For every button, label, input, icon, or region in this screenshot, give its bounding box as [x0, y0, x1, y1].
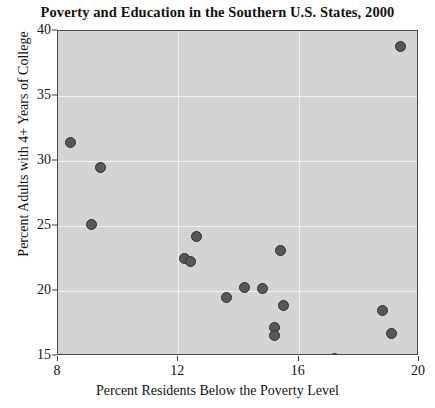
- gridline-horizontal: [58, 226, 417, 227]
- x-tick-label: 8: [54, 363, 61, 379]
- data-point: [86, 219, 97, 230]
- gridline-vertical: [299, 31, 300, 354]
- y-tick-label: 20: [5, 282, 57, 298]
- gridline-horizontal: [58, 291, 417, 292]
- plot-area: [57, 30, 418, 355]
- data-point: [191, 231, 202, 242]
- y-tick-label: 15: [5, 347, 57, 363]
- y-tick-label: 35: [5, 87, 57, 103]
- data-point: [278, 300, 289, 311]
- data-point: [221, 292, 232, 303]
- data-point: [185, 256, 196, 267]
- scatter-chart-figure: Poverty and Education in the Southern U.…: [0, 0, 435, 408]
- x-tick-mark: [177, 356, 178, 361]
- y-tick-label: 30: [5, 152, 57, 168]
- data-point: [329, 353, 340, 355]
- y-tick-label: 40: [5, 22, 57, 38]
- data-point: [275, 245, 286, 256]
- data-point: [95, 162, 106, 173]
- x-tick-mark: [298, 356, 299, 361]
- x-tick-label: 20: [411, 363, 425, 379]
- x-axis: 8121620: [57, 356, 418, 380]
- data-point: [239, 282, 250, 293]
- data-point: [269, 330, 280, 341]
- x-tick-label: 12: [170, 363, 184, 379]
- data-point: [386, 328, 397, 339]
- gridline-vertical: [178, 31, 179, 354]
- gridline-horizontal: [58, 96, 417, 97]
- gridline-horizontal: [58, 161, 417, 162]
- data-point: [65, 137, 76, 148]
- y-axis-label: Percent Adults with 4+ Years of College: [16, 0, 32, 294]
- x-tick-mark: [57, 356, 58, 361]
- chart-title: Poverty and Education in the Southern U.…: [0, 4, 435, 21]
- x-axis-label: Percent Residents Below the Poverty Leve…: [0, 383, 435, 399]
- data-point: [395, 41, 406, 52]
- y-axis: Percent Adults with 4+ Years of College …: [0, 30, 57, 355]
- x-tick-label: 16: [291, 363, 305, 379]
- y-tick-label: 25: [5, 217, 57, 233]
- x-tick-mark: [418, 356, 419, 361]
- data-point: [257, 283, 268, 294]
- data-point: [377, 305, 388, 316]
